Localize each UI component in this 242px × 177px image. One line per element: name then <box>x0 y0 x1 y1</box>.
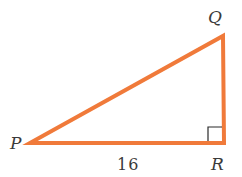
vertex-label-q: Q <box>208 7 222 27</box>
vertex-label-p: P <box>9 133 22 153</box>
vertex-label-r: R <box>210 154 224 174</box>
triangle-pqr <box>30 36 224 143</box>
triangle-diagram: Q P R 16 <box>0 0 242 177</box>
right-angle-marker <box>208 127 222 141</box>
side-label-pr: 16 <box>117 155 139 174</box>
